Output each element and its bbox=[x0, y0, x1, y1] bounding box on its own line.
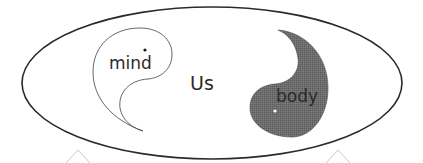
us-diagram: mind Us body bbox=[0, 0, 423, 163]
us-label: Us bbox=[190, 72, 214, 94]
body-label: body bbox=[276, 86, 318, 106]
body-dot bbox=[273, 109, 276, 112]
mind-dot bbox=[143, 48, 146, 51]
mind-label: mind bbox=[109, 53, 152, 73]
